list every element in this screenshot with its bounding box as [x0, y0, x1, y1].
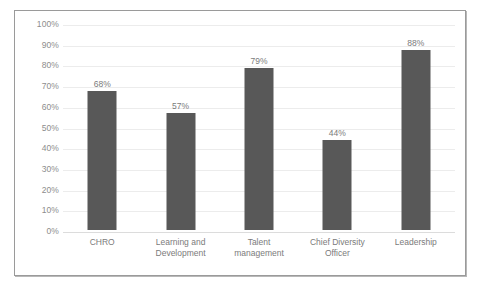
y-axis-tick-label: 40% [15, 144, 59, 153]
x-axis-category-label-line: Officer [310, 248, 365, 259]
y-axis-tick-label: 0% [15, 227, 59, 236]
x-axis-category-label: Talentmanagement [234, 237, 284, 259]
bar-value-label: 44% [329, 128, 346, 138]
chart-frame: 100%90%80%70%60%50%40%30%20%10%0% 68%CHR… [14, 10, 466, 276]
bar-group: 68%CHRO [63, 25, 141, 230]
x-axis-category-label-line: Talent [234, 237, 284, 248]
bar[interactable] [166, 113, 195, 230]
x-axis-category-label: Learning andDevelopment [156, 237, 206, 259]
gridline-0pct [63, 232, 455, 233]
bar-group: 57%Learning andDevelopment [141, 25, 219, 230]
y-axis-tick-label: 60% [15, 103, 59, 112]
x-axis-category-label-line: Chief Diversity [310, 237, 365, 248]
bar[interactable] [401, 50, 430, 230]
bar-group: 88%Leadership [377, 25, 455, 230]
bar-value-label: 68% [94, 79, 111, 89]
bar-value-label: 57% [172, 101, 189, 111]
y-axis-tick-label: 10% [15, 206, 59, 215]
bar-value-label: 79% [250, 56, 267, 66]
y-axis-tick-label: 50% [15, 124, 59, 133]
x-axis-category-label-line: Learning and [156, 237, 206, 248]
bar-group: 44%Chief DiversityOfficer [298, 25, 376, 230]
x-axis-category-label: CHRO [90, 237, 115, 248]
y-axis-tick-label: 70% [15, 82, 59, 91]
x-axis-category-label: Chief DiversityOfficer [310, 237, 365, 259]
plot-area: 100%90%80%70%60%50%40%30%20%10%0% 68%CHR… [15, 11, 465, 275]
x-axis-category-label-line: Leadership [395, 237, 437, 248]
bars-layer: 68%CHRO57%Learning andDevelopment79%Tale… [63, 25, 455, 230]
y-axis-tick-label: 30% [15, 165, 59, 174]
bar[interactable] [244, 68, 273, 230]
y-axis-tick-label: 80% [15, 61, 59, 70]
x-axis-category-label-line: CHRO [90, 237, 115, 248]
y-axis-tick-label: 90% [15, 41, 59, 50]
x-axis-category-label: Leadership [395, 237, 437, 248]
bar[interactable] [323, 140, 352, 230]
x-axis-category-label-line: management [234, 248, 284, 259]
bar[interactable] [88, 91, 117, 230]
y-axis-tick-label: 20% [15, 186, 59, 195]
bar-group: 79%Talentmanagement [220, 25, 298, 230]
y-axis-tick-label: 100% [15, 20, 59, 29]
bar-value-label: 88% [407, 38, 424, 48]
x-axis-category-label-line: Development [156, 248, 206, 259]
